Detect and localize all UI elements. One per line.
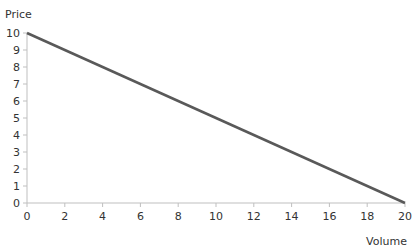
series-line xyxy=(27,33,405,203)
x-tick-label: 6 xyxy=(137,210,144,223)
y-tick-label: 9 xyxy=(13,44,20,57)
x-tick-label: 4 xyxy=(99,210,106,223)
y-tick-label: 8 xyxy=(13,61,20,74)
y-ticks: 012345678910 xyxy=(6,27,27,210)
x-tick-label: 16 xyxy=(322,210,336,223)
y-tick-label: 10 xyxy=(6,27,20,40)
x-tick-label: 18 xyxy=(360,210,374,223)
y-tick-label: 4 xyxy=(13,129,20,142)
y-tick-label: 7 xyxy=(13,78,20,91)
x-axis-title: Volume xyxy=(366,235,407,248)
x-tick-label: 10 xyxy=(209,210,223,223)
y-tick-label: 6 xyxy=(13,95,20,108)
x-ticks: 02468101214161820 xyxy=(24,203,413,223)
y-tick-label: 5 xyxy=(13,112,20,125)
x-tick-label: 12 xyxy=(247,210,261,223)
x-tick-label: 14 xyxy=(285,210,299,223)
y-tick-label: 2 xyxy=(13,163,20,176)
x-tick-label: 2 xyxy=(61,210,68,223)
y-axis-title: Price xyxy=(5,8,32,21)
y-tick-label: 0 xyxy=(13,197,20,210)
series-group xyxy=(27,33,405,203)
x-tick-label: 8 xyxy=(175,210,182,223)
y-tick-label: 3 xyxy=(13,146,20,159)
chart: 02468101214161820 012345678910 Price Vol… xyxy=(0,0,418,252)
y-tick-label: 1 xyxy=(13,180,20,193)
x-tick-label: 0 xyxy=(24,210,31,223)
x-tick-label: 20 xyxy=(398,210,412,223)
